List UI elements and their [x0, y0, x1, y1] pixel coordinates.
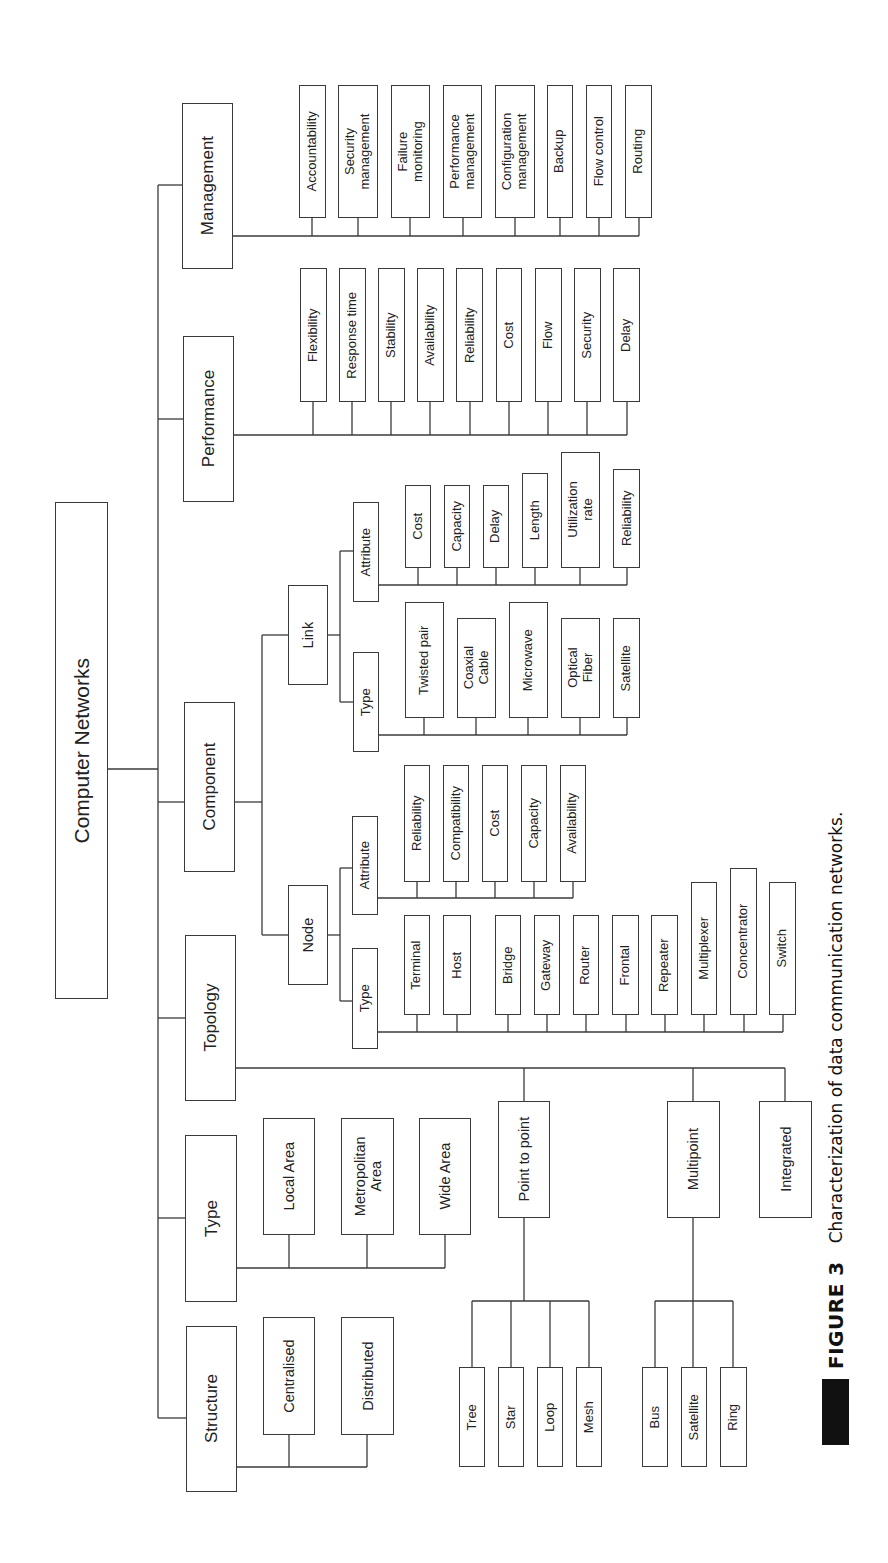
performance-item: Reliability: [456, 268, 483, 402]
item-label: Routing: [631, 129, 646, 174]
item-label: Cost: [411, 513, 426, 540]
node-type-item: Gateway: [534, 915, 560, 1015]
type-item: Wide Area: [419, 1118, 471, 1235]
link-attribute-item: Cost: [405, 485, 431, 568]
structure-label: Structure: [202, 1375, 221, 1444]
structure-item: Centralised: [263, 1317, 315, 1435]
item-label: Stability: [384, 312, 399, 358]
performance-item: Delay: [613, 268, 640, 402]
item-label: Capacity: [527, 798, 542, 849]
item-label: Reliability: [410, 796, 425, 852]
item-label: Delay: [489, 510, 504, 543]
item-label: Local Area: [281, 1142, 297, 1211]
performance-item: Flexibility: [300, 268, 327, 402]
item-label: Router: [579, 945, 594, 984]
item-label: Host: [450, 952, 465, 979]
link-type-item: Coaxial Cable: [457, 618, 496, 718]
point-to-point-item: Star: [498, 1367, 524, 1467]
node-node-attribute: Attribute: [352, 816, 378, 915]
item-label: Security: [580, 312, 595, 359]
point-to-point-item: Loop: [537, 1367, 563, 1467]
node-integrated: Integrated: [759, 1101, 812, 1218]
node-type-label: Type: [358, 984, 373, 1012]
node-type-item: Router: [573, 915, 599, 1015]
item-label: Compatibility: [449, 786, 464, 860]
item-label: Star: [504, 1405, 519, 1429]
node-component: Component: [184, 702, 235, 872]
node-node: Node: [288, 885, 328, 985]
node-attribute-item: Capacity: [521, 765, 547, 882]
structure-item: Distributed: [341, 1317, 394, 1435]
point-to-point-item: Mesh: [576, 1367, 602, 1467]
management-item: Backup: [547, 85, 573, 218]
performance-item: Flow: [535, 268, 562, 402]
link-type-item: Satellite: [613, 618, 640, 718]
item-label: Centralised: [281, 1339, 297, 1412]
node-type-item: Bridge: [495, 915, 521, 1015]
item-label: Satellite: [687, 1394, 702, 1440]
item-label: Flow: [541, 321, 556, 348]
node-type-item: Concentrator: [730, 868, 757, 1015]
link-type-item: Optical Fiber: [561, 618, 600, 718]
item-label: Repeater: [657, 938, 672, 991]
item-label: Coaxial Cable: [462, 646, 491, 689]
link-attribute-label: Attribute: [359, 528, 374, 576]
item-label: Microwave: [521, 629, 536, 691]
link-attribute-item: Delay: [483, 485, 509, 568]
item-label: Ring: [726, 1404, 741, 1431]
figure-caption: FIGURE 3 Characterization of data commun…: [822, 812, 849, 1445]
node-type-item: Terminal: [404, 915, 430, 1015]
item-label: Multiplexer: [697, 917, 712, 980]
link-type-item: Microwave: [509, 602, 548, 718]
item-label: Cost: [502, 322, 517, 349]
node-link-type: Type: [353, 652, 379, 752]
item-label: Performance management: [448, 114, 477, 190]
node-attribute-label: Attribute: [358, 841, 373, 889]
management-item: Routing: [625, 85, 652, 218]
component-label: Component: [200, 743, 219, 831]
link-attribute-item: Length: [522, 473, 548, 568]
item-label: Availability: [566, 793, 581, 854]
item-label: Failure monitoring: [396, 121, 425, 182]
type-item: Local Area: [263, 1118, 315, 1235]
diagram-canvas: Computer Networks Management Performance…: [0, 0, 888, 1563]
node-topology: Topology: [185, 935, 236, 1101]
item-label: Flow control: [592, 116, 607, 186]
root-label: Computer Networks: [70, 658, 94, 844]
node-type-item: Frontal: [612, 915, 639, 1015]
item-label: Accountability: [305, 111, 320, 191]
management-item: Configuration management: [495, 85, 535, 218]
type-label: Type: [201, 1200, 220, 1237]
performance-item: Stability: [378, 268, 405, 402]
item-label: Delay: [619, 318, 634, 351]
item-label: Optical Fiber: [566, 648, 595, 688]
item-label: Configuration management: [500, 113, 529, 190]
node-type-item: Multiplexer: [691, 882, 717, 1015]
item-label: Reliability: [619, 491, 634, 547]
point-to-point-label: Point to point: [516, 1117, 532, 1202]
node-node-type: Type: [352, 948, 378, 1049]
link-type-item: Twisted pair: [405, 602, 444, 718]
node-link-attribute: Attribute: [353, 502, 379, 602]
performance-label: Performance: [199, 370, 218, 467]
item-label: Flexibility: [306, 308, 321, 361]
link-attribute-item: Capacity: [444, 485, 470, 568]
item-label: Satellite: [619, 645, 634, 691]
multipoint-item: Bus: [642, 1367, 668, 1467]
item-label: Wide Area: [437, 1143, 453, 1210]
performance-item: Response time: [339, 268, 366, 402]
multipoint-label: Multipoint: [685, 1128, 701, 1190]
node-attribute-item: Cost: [482, 765, 508, 882]
link-attribute-item: Reliability: [613, 469, 640, 568]
management-item: Performance management: [443, 85, 482, 218]
caption-marker-block: [822, 1379, 849, 1445]
item-label: Reliability: [462, 307, 477, 363]
management-item: Failure monitoring: [391, 85, 430, 218]
management-item: Security management: [338, 85, 378, 218]
item-label: Mesh: [582, 1401, 597, 1433]
management-item: Flow control: [586, 85, 612, 218]
node-label: Node: [300, 918, 316, 953]
link-attribute-item: Utilization rate: [561, 452, 600, 568]
performance-item: Security: [574, 268, 601, 402]
item-label: Frontal: [618, 945, 633, 985]
